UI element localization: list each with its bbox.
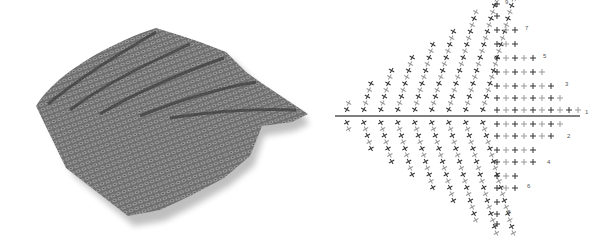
crochet-leaf-photo [0, 0, 320, 236]
row-label: 3 [565, 81, 569, 87]
row-label: 4 [547, 159, 551, 165]
row-label: 5 [543, 53, 547, 59]
row-label: 7 [525, 25, 529, 31]
row-label: 1 [585, 109, 589, 115]
row-label: 6 [527, 183, 531, 189]
crochet-stitch-diagram: 975312468 [330, 0, 616, 236]
row-label: 9 [505, 0, 509, 5]
row-label: 2 [567, 133, 571, 139]
